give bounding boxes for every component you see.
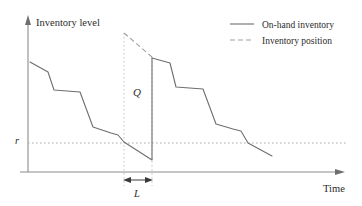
inventory-position-dashed-segment [124,33,152,57]
on-hand-inventory-cycle-2 [152,58,272,156]
chart-canvas [0,0,362,206]
legend-label-inventory-position: Inventory position [262,36,332,46]
on-hand-inventory-cycle-1 [30,62,152,160]
legend-label-on-hand-inventory: On-hand inventory [262,20,334,30]
inventory-level-chart: Inventory level Time r Q L On-hand inven… [0,0,362,206]
reorder-point-label: r [15,136,19,147]
y-axis-label: Inventory level [36,18,100,29]
lead-time-label: L [134,189,140,200]
order-quantity-label: Q [133,87,141,98]
x-axis-label: Time [323,184,345,195]
y-axis-arrowhead [25,15,31,25]
x-axis-arrowhead [335,169,345,175]
